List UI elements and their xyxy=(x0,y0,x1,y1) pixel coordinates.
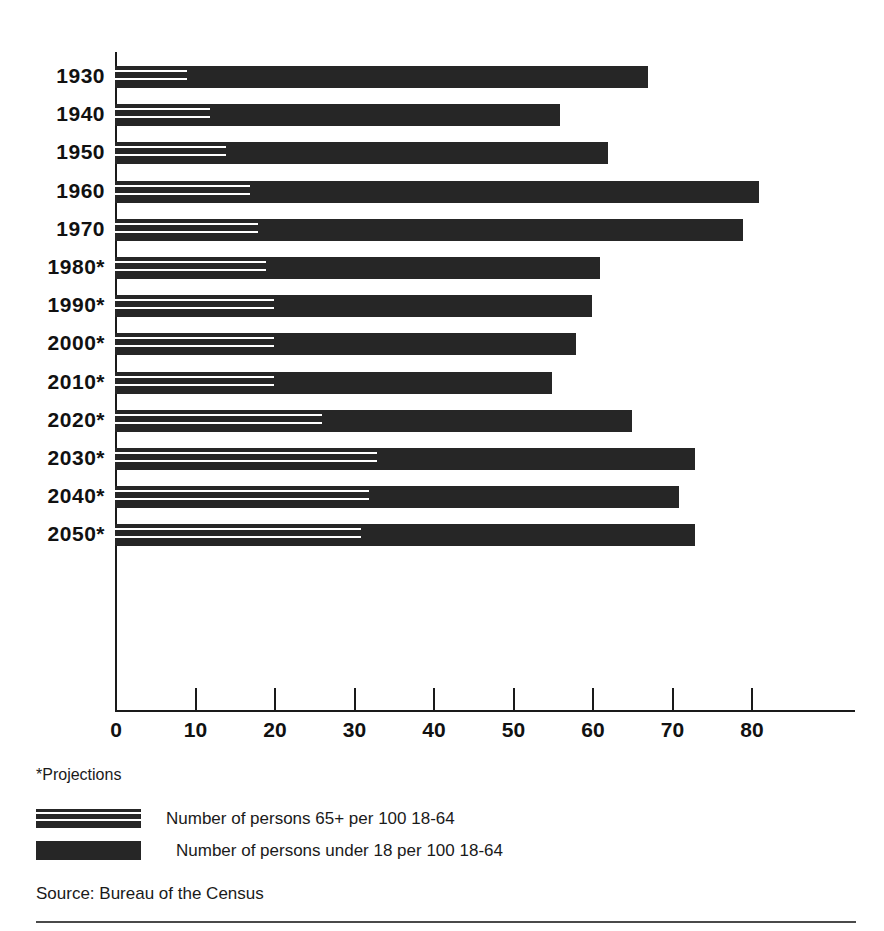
bar-group xyxy=(115,104,560,126)
x-axis-tick-label: 50 xyxy=(484,718,544,742)
bar-segment-65-plus xyxy=(115,181,250,203)
bar-row-label: 1930 xyxy=(0,57,105,95)
bar-row-label: 1940 xyxy=(0,95,105,133)
bar-group xyxy=(115,66,648,88)
x-axis-line xyxy=(115,710,855,712)
x-axis-tick xyxy=(354,688,356,710)
legend-label-elderly: Number of persons 65+ per 100 18-64 xyxy=(166,805,455,833)
bar-segment-65-plus xyxy=(115,66,187,88)
bar-row-label: 2040* xyxy=(0,477,105,515)
bar-group xyxy=(115,524,695,546)
bar-segment-65-plus xyxy=(115,486,369,508)
bar-segment-65-plus xyxy=(115,142,226,164)
bar-group xyxy=(115,142,608,164)
dependency-ratio-chart: 193019401950196019701980*1990*2000*2010*… xyxy=(0,0,884,931)
bar-row-label: 1980* xyxy=(0,248,105,286)
bar-group xyxy=(115,257,600,279)
x-axis-tick-label: 70 xyxy=(643,718,703,742)
bar-segment-65-plus xyxy=(115,257,266,279)
bar-row-label: 2000* xyxy=(0,324,105,362)
source-note: Source: Bureau of the Census xyxy=(36,884,264,904)
bar-group xyxy=(115,333,576,355)
bar-group xyxy=(115,486,679,508)
bottom-rule xyxy=(36,921,856,923)
legend-swatch-solid-icon xyxy=(36,841,141,860)
x-axis-tick-label: 80 xyxy=(722,718,782,742)
bar-segment-65-plus xyxy=(115,372,274,394)
x-axis-tick-label: 0 xyxy=(86,718,146,742)
bar-segment-65-plus xyxy=(115,524,361,546)
legend-item-elderly: Number of persons 65+ per 100 18-64 xyxy=(36,805,836,837)
x-axis-tick xyxy=(115,688,117,710)
x-axis-tick xyxy=(672,688,674,710)
bar-group xyxy=(115,219,743,241)
bar-group xyxy=(115,410,632,432)
x-axis-tick xyxy=(592,688,594,710)
bar-segment-65-plus xyxy=(115,410,322,432)
bar-group xyxy=(115,295,592,317)
x-axis-tick-label: 30 xyxy=(325,718,385,742)
bar-segment-65-plus xyxy=(115,295,274,317)
x-axis-tick xyxy=(751,688,753,710)
bar-row-label: 1950 xyxy=(0,133,105,171)
bar-row-label: 1970 xyxy=(0,210,105,248)
x-axis-tick xyxy=(513,688,515,710)
bar-row-label: 2030* xyxy=(0,439,105,477)
x-axis-tick xyxy=(433,688,435,710)
bar-group xyxy=(115,372,552,394)
x-axis-tick-label: 10 xyxy=(166,718,226,742)
bar-segment-65-plus xyxy=(115,219,258,241)
bar-segment-65-plus xyxy=(115,333,274,355)
legend-label-youth: Number of persons under 18 per 100 18-64 xyxy=(176,837,503,865)
bar-segment-65-plus xyxy=(115,104,210,126)
legend-swatch-hatched-icon xyxy=(36,809,141,828)
bar-row-label: 1990* xyxy=(0,286,105,324)
bar-segment-65-plus xyxy=(115,448,377,470)
bar-row-label: 2010* xyxy=(0,363,105,401)
bar-row-label: 1960 xyxy=(0,172,105,210)
legend-item-youth: Number of persons under 18 per 100 18-64 xyxy=(36,837,836,869)
bar-segment-under-18 xyxy=(115,66,648,88)
legend: Number of persons 65+ per 100 18-64 Numb… xyxy=(36,805,836,869)
bar-row-label: 2020* xyxy=(0,401,105,439)
projections-footnote: *Projections xyxy=(36,766,121,784)
plot-area: 193019401950196019701980*1990*2000*2010*… xyxy=(0,0,884,690)
x-axis-tick-label: 40 xyxy=(404,718,464,742)
bar-group xyxy=(115,181,759,203)
bar-group xyxy=(115,448,695,470)
x-axis-tick-label: 20 xyxy=(245,718,305,742)
x-axis-tick xyxy=(195,688,197,710)
x-axis-tick-label: 60 xyxy=(563,718,623,742)
bar-row-label: 2050* xyxy=(0,515,105,553)
x-axis-tick xyxy=(274,688,276,710)
